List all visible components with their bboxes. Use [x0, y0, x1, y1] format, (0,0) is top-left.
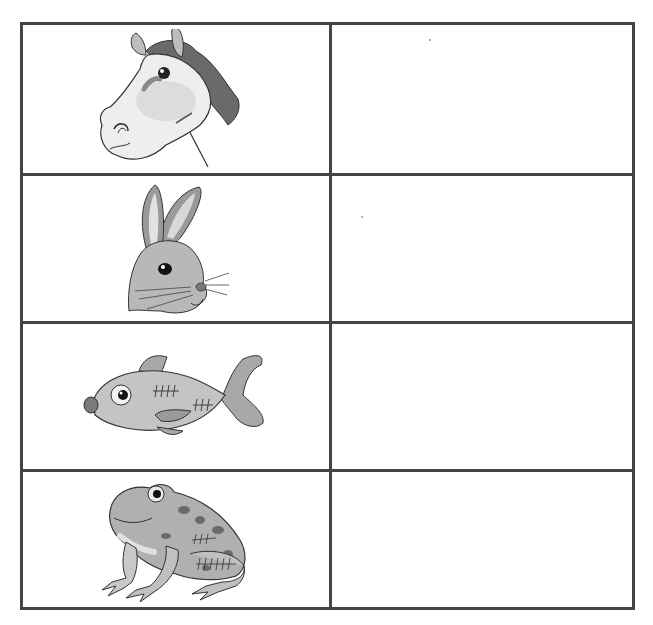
answer-cell[interactable]: [332, 176, 632, 321]
table-row: [23, 176, 632, 321]
animal-image-cell: [23, 176, 329, 321]
rabbit-head-icon: [121, 181, 231, 317]
worksheet-table: [20, 22, 635, 610]
animal-image-cell: [23, 324, 329, 469]
table-row: [23, 25, 632, 173]
table-row: [23, 324, 632, 469]
animal-image-cell: [23, 472, 329, 607]
horse-head-icon: [96, 29, 256, 169]
animal-image-cell: [23, 25, 329, 173]
frog-icon: [96, 478, 256, 602]
table-row: [23, 472, 632, 607]
answer-cell[interactable]: [332, 472, 632, 607]
paper-speck: [361, 216, 363, 218]
paper-speck: [429, 39, 431, 41]
answer-cell[interactable]: [332, 324, 632, 469]
fish-icon: [81, 347, 271, 447]
answer-cell[interactable]: [332, 25, 632, 173]
